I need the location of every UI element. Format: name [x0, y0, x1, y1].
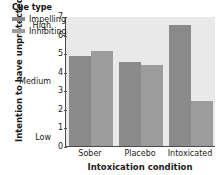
- y-tick-mark-7: [64, 17, 67, 18]
- y-word-tick-low: Low: [5, 133, 51, 142]
- bar-intoxicated-impelling: [169, 25, 191, 146]
- y-tick-label-3: 3: [53, 86, 63, 95]
- x-tick-label-intoxicated: Intoxicated: [168, 149, 213, 158]
- y-word-tick-low-label: Low: [35, 133, 51, 142]
- legend-title: Cue type: [12, 3, 67, 12]
- bar-placebo-impelling: [119, 62, 141, 147]
- legend-label-inhibiting: Inhibiting: [29, 27, 67, 36]
- bar-intoxicated-inhibiting: [191, 101, 213, 146]
- y-tick-mark-4: [64, 73, 67, 74]
- y-tick-mark-2: [64, 110, 67, 111]
- y-tick-label-4: 4: [53, 68, 63, 77]
- y-tick-mark-0: [64, 147, 67, 148]
- legend-item-inhibiting: Inhibiting: [12, 26, 67, 36]
- legend-swatch-impelling: [12, 17, 25, 21]
- x-tick-label-placebo: Placebo: [124, 149, 155, 158]
- plot-area: [65, 17, 215, 147]
- bar-chart-figure: Intention to have unprotected sex Low Me…: [0, 0, 220, 175]
- legend: Cue type Impelling Inhibiting: [12, 3, 67, 38]
- bar-sober-inhibiting: [91, 51, 113, 146]
- x-tick-label-sober: Sober: [78, 149, 101, 158]
- bar-sober-impelling: [69, 56, 91, 146]
- legend-swatch-inhibiting: [12, 29, 25, 33]
- bar-group-intoxicated: [166, 17, 216, 146]
- y-tick-label-0: 0: [53, 142, 63, 151]
- legend-item-impelling: Impelling: [12, 14, 67, 24]
- x-axis-title: Intoxication condition: [65, 162, 215, 172]
- y-tick-label-1: 1: [53, 123, 63, 132]
- y-tick-mark-3: [64, 91, 67, 92]
- x-axis-tick-labels: SoberPlaceboIntoxicated: [65, 149, 215, 161]
- y-word-tick-medium: Medium: [5, 77, 51, 86]
- y-tick-mark-6: [64, 36, 67, 37]
- bar-placebo-inhibiting: [141, 65, 163, 146]
- bars-container: [66, 17, 215, 146]
- y-tick-mark-1: [64, 128, 67, 129]
- bar-group-placebo: [116, 17, 166, 146]
- legend-label-impelling: Impelling: [29, 15, 66, 24]
- y-word-tick-medium-label: Medium: [19, 77, 51, 86]
- y-tick-label-2: 2: [53, 105, 63, 114]
- bar-group-sober: [66, 17, 116, 146]
- y-tick-label-5: 5: [53, 49, 63, 58]
- y-tick-mark-5: [64, 54, 67, 55]
